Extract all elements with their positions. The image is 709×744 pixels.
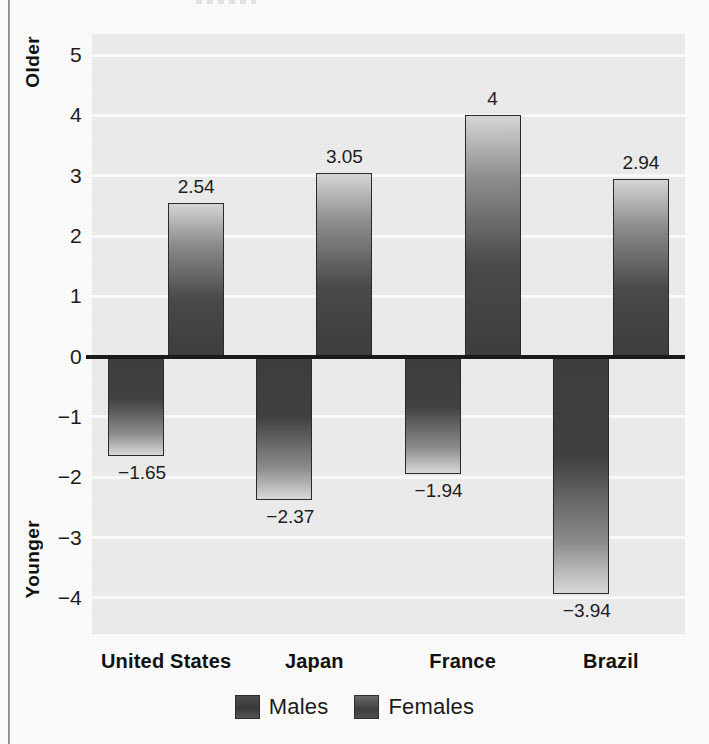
female-swatch [354, 695, 379, 719]
bar-female-japan [316, 173, 372, 357]
bar-value-label: 3.05 [326, 146, 363, 168]
y-tick-label: 3 [70, 164, 82, 188]
gridline [92, 54, 685, 57]
legend-item-females[interactable]: Females [354, 694, 474, 720]
y-tick-label: −2 [58, 465, 82, 489]
bar-value-label: 2.54 [178, 176, 215, 198]
y-tick-label: 1 [70, 284, 82, 308]
bar-value-label: 4 [487, 88, 498, 110]
y-tick-label: 4 [70, 103, 82, 127]
x-axis-category-labels: United StatesJapanFranceBrazil [92, 650, 685, 680]
bar-value-label: −1.65 [118, 462, 166, 484]
legend-label: Males [269, 694, 329, 720]
bar-male-united-states [108, 357, 164, 456]
y-axis-label-older: Older [22, 36, 44, 88]
bar-female-united-states [168, 203, 224, 356]
y-tick-label: 5 [70, 43, 82, 67]
bar-value-label: 2.94 [622, 152, 659, 174]
y-tick-label: −3 [58, 526, 82, 550]
plot-area: 2.54−1.653.05−2.374−1.942.94−3.94 [92, 34, 685, 634]
gridline [92, 596, 685, 599]
bar-value-label: −3.94 [563, 600, 611, 622]
y-tick-label: 2 [70, 224, 82, 248]
legend-item-males[interactable]: Males [235, 694, 329, 720]
bar-chart-figure: 543210−1−2−3−4 Older Younger 2.54−1.653.… [0, 0, 709, 744]
y-tick-label: −1 [58, 405, 82, 429]
y-tick-label: −4 [58, 586, 82, 610]
category-label-japan: Japan [285, 650, 344, 673]
gridline [92, 114, 685, 117]
bar-female-brazil [613, 179, 669, 356]
male-swatch [235, 695, 260, 719]
bar-male-france [405, 357, 461, 474]
bar-value-label: −2.37 [266, 506, 314, 528]
bar-female-france [465, 115, 521, 356]
legend-label: Females [388, 694, 474, 720]
category-label-brazil: Brazil [583, 650, 639, 673]
bar-male-japan [256, 357, 312, 500]
y-tick-label: 0 [70, 345, 82, 369]
category-label-united-states: United States [101, 650, 231, 673]
bar-male-brazil [553, 357, 609, 595]
y-axis-label-younger: Younger [22, 520, 44, 598]
zero-baseline [86, 355, 685, 359]
bar-value-label: −1.94 [415, 480, 463, 502]
chart-legend: MalesFemales [0, 694, 709, 720]
category-label-france: France [429, 650, 496, 673]
